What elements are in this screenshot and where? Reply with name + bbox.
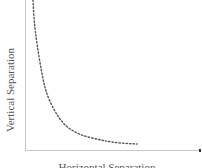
y-axis-label-text: Vertical Separation [4, 48, 16, 132]
y-axis-label: Vertical Separation [1, 50, 19, 130]
dotted-curve [33, 0, 137, 144]
x-axis-end-marker [199, 149, 201, 152]
chart-plot-area [0, 0, 202, 168]
x-axis-label: Horizontal Separation [0, 161, 202, 168]
